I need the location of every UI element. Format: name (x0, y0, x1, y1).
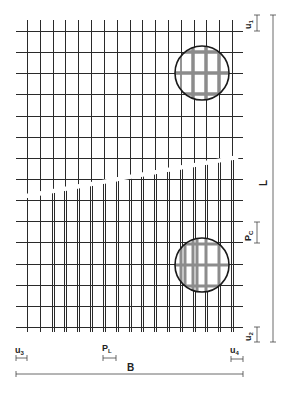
label-width: B (127, 362, 134, 373)
detail-circle-lower (170, 230, 235, 300)
dimension-pl (103, 355, 116, 361)
mesh-diagram: u1 L PC u2 u3 PL u4 (0, 0, 289, 394)
label-pc: PC (243, 230, 254, 241)
label-u2: u2 (243, 332, 254, 342)
dimension-u2 (254, 327, 260, 342)
label-u3: u3 (15, 345, 25, 356)
label-pl: PL (102, 343, 112, 354)
dimension-pc (254, 222, 260, 243)
dimension-u4 (231, 356, 243, 362)
label-u4: u4 (230, 345, 240, 356)
dimension-u1 (254, 15, 260, 31)
label-u1: u1 (243, 20, 254, 30)
label-length: L (258, 180, 269, 186)
detail-circle-upper (170, 40, 235, 110)
dimension-length (270, 15, 276, 342)
